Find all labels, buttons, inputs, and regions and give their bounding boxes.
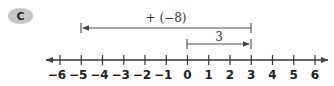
axis-tick-label: 1 [205, 68, 213, 82]
axis-tick-label: −4 [90, 68, 108, 82]
axis-tick-label: −1 [154, 68, 172, 82]
axis-tick-label: −5 [69, 68, 87, 82]
axis-tick-labels: −6−5−4−3−2−10123456 [48, 68, 319, 82]
axis-tick-label: 5 [290, 68, 298, 82]
bracket-label: 3 [215, 30, 223, 44]
number-line-axis: −6−5−4−3−2−10123456 [46, 55, 328, 82]
axis-tick-label: −3 [112, 68, 130, 82]
number-line-diagram: + (−8) 3 −6−5−4−3−2−10123456 [0, 0, 334, 86]
axis-tick-label: 3 [247, 68, 255, 82]
axis-tick-label: −6 [48, 68, 66, 82]
bracket-plus-neg8: + (−8) [81, 11, 251, 33]
axis-tick-label: 4 [268, 68, 276, 82]
axis-tick-label: 0 [183, 68, 191, 82]
bracket-3: 3 [187, 30, 251, 49]
axis-tick-label: −2 [133, 68, 151, 82]
bracket-label: + (−8) [146, 11, 187, 25]
axis-tick-label: 2 [226, 68, 234, 82]
axis-tick-label: 6 [311, 68, 319, 82]
